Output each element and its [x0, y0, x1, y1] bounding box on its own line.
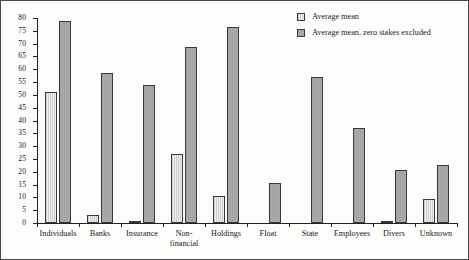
y-axis-tick — [33, 210, 37, 211]
plot-area: 05101520253035404550556065707580 Individ… — [37, 18, 457, 223]
bar-group — [129, 18, 156, 223]
x-axis-category-label: State — [302, 229, 318, 239]
x-axis-tick — [37, 223, 38, 227]
bar-group — [339, 18, 366, 223]
y-axis-tick-label: 75 — [18, 27, 26, 35]
x-axis-tick — [163, 223, 164, 227]
y-axis-tick-label: 15 — [18, 181, 26, 189]
x-axis-tick — [289, 223, 290, 227]
y-axis-tick — [33, 95, 37, 96]
x-axis-category-label: Holdings — [211, 229, 241, 239]
legend-item-label: Average mean — [312, 12, 359, 21]
bar — [437, 165, 450, 223]
x-axis-tick — [457, 223, 458, 227]
x-axis-tick — [79, 223, 80, 227]
chart-figure: 05101520253035404550556065707580 Individ… — [0, 0, 469, 260]
y-axis-tick-label: 10 — [18, 194, 26, 202]
y-axis-tick-label: 35 — [18, 130, 26, 138]
x-axis-tick — [247, 223, 248, 227]
y-axis-tick-label: 0 — [22, 219, 26, 227]
y-axis-tick-label: 20 — [18, 168, 26, 176]
bar — [143, 85, 156, 223]
y-axis-tick — [33, 56, 37, 57]
legend-item-average-mean-zero-stakes-excluded: Average mean, zero stakes excluded — [297, 28, 431, 37]
x-axis-tick — [373, 223, 374, 227]
bar-group — [87, 18, 114, 223]
y-axis-tick — [33, 121, 37, 122]
bar — [87, 215, 100, 223]
y-axis-tick-label: 60 — [18, 66, 26, 74]
bar — [423, 199, 436, 223]
x-axis-category-label: Divers — [383, 229, 405, 239]
y-axis-tick-label: 55 — [18, 78, 26, 86]
y-axis-tick — [33, 31, 37, 32]
y-axis-tick — [33, 146, 37, 147]
bar-group — [45, 18, 72, 223]
legend-item-label: Average mean, zero stakes excluded — [312, 28, 431, 37]
legend-item-average-mean: Average mean — [297, 12, 431, 21]
y-axis-tick — [33, 159, 37, 160]
x-axis-category-label: Banks — [90, 229, 110, 239]
bar — [45, 92, 58, 223]
x-axis-tick — [205, 223, 206, 227]
chart-legend: Average mean Average mean, zero stakes e… — [297, 12, 431, 44]
bar — [353, 128, 366, 223]
bar-group — [171, 18, 198, 223]
y-axis-tick — [33, 18, 37, 19]
legend-swatch-icon — [297, 29, 305, 37]
y-axis-tick — [33, 44, 37, 45]
y-axis-tick — [33, 133, 37, 134]
bar — [171, 154, 184, 223]
y-axis-tick — [33, 197, 37, 198]
y-axis-tick-label: 65 — [18, 53, 26, 61]
x-axis-tick — [415, 223, 416, 227]
y-axis-tick — [33, 108, 37, 109]
bar — [129, 221, 142, 223]
x-axis-category-label: Employees — [334, 229, 370, 239]
bar-group — [255, 18, 282, 223]
bar — [59, 21, 72, 223]
y-axis-line — [37, 18, 38, 224]
bar-group — [213, 18, 240, 223]
bar-group — [381, 18, 408, 223]
y-axis-tick — [33, 185, 37, 186]
x-axis-category-label: Individuals — [40, 229, 77, 239]
bar — [269, 183, 282, 223]
bar-group — [297, 18, 324, 223]
y-axis-tick-label: 80 — [18, 14, 26, 22]
x-axis-tick — [121, 223, 122, 227]
y-axis-tick-label: 30 — [18, 142, 26, 150]
y-axis-tick — [33, 69, 37, 70]
x-axis-tick — [331, 223, 332, 227]
y-axis-tick — [33, 172, 37, 173]
y-axis-tick-label: 70 — [18, 40, 26, 48]
bar — [185, 47, 198, 223]
bar — [381, 221, 394, 223]
bar — [395, 170, 408, 223]
bar — [101, 73, 114, 223]
y-axis-tick — [33, 82, 37, 83]
bar — [227, 27, 240, 223]
bar — [213, 196, 226, 223]
x-axis-category-label: Unknown — [420, 229, 452, 239]
bar — [311, 77, 324, 223]
y-axis-tick-label: 45 — [18, 104, 26, 112]
y-axis-tick-label: 40 — [18, 117, 26, 125]
x-axis-category-label: Non- financial — [170, 229, 199, 248]
bar-group — [423, 18, 450, 223]
y-axis-tick-label: 25 — [18, 155, 26, 163]
x-axis-category-label: Insurance — [126, 229, 158, 239]
y-axis-tick-label: 5 — [22, 206, 26, 214]
x-axis-category-label: Float — [260, 229, 277, 239]
y-axis-tick-label: 50 — [18, 91, 26, 99]
legend-swatch-icon — [297, 13, 305, 21]
